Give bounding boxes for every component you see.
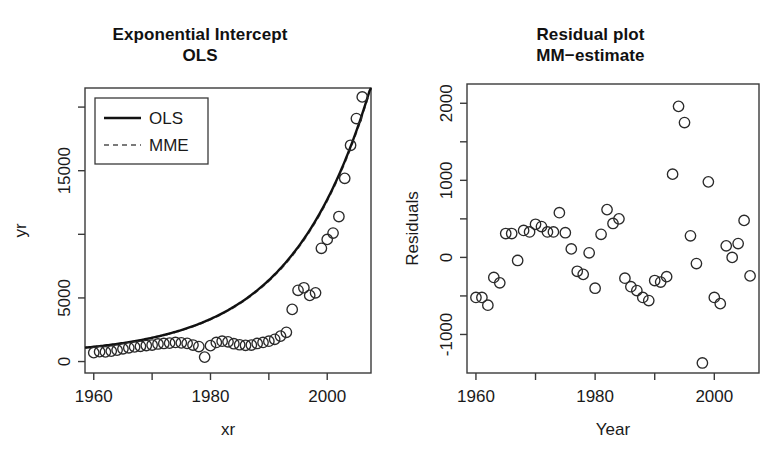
- y-tick-label: 15000: [55, 147, 74, 194]
- data-point: [602, 204, 612, 214]
- x-tick-label: 2000: [308, 387, 346, 406]
- data-point: [638, 292, 648, 302]
- data-point: [501, 228, 511, 238]
- y-tick-label: 1000: [437, 161, 456, 199]
- data-point: [703, 177, 713, 187]
- x-tick-label: 1980: [192, 387, 230, 406]
- data-point: [536, 221, 546, 231]
- data-point: [340, 173, 350, 183]
- data-point: [560, 228, 570, 238]
- data-point: [590, 283, 600, 293]
- data-point: [745, 271, 755, 281]
- x-tick-label: 1980: [576, 387, 614, 406]
- y-tick-label: 0: [437, 253, 456, 262]
- data-point: [679, 117, 689, 127]
- data-point: [685, 231, 695, 241]
- data-point: [264, 336, 274, 346]
- data-point: [322, 234, 332, 244]
- x-axis-label: Year: [596, 420, 631, 439]
- y-axis-label: yr: [11, 223, 30, 238]
- data-point: [673, 101, 683, 111]
- data-point: [626, 281, 636, 291]
- y-tick-label: 5000: [55, 279, 74, 317]
- x-tick-label: 2000: [695, 387, 733, 406]
- data-point: [530, 219, 540, 229]
- y-tick-label: 0: [55, 357, 74, 366]
- data-point: [584, 248, 594, 258]
- data-point: [566, 244, 576, 254]
- data-point: [733, 238, 743, 248]
- data-point: [578, 269, 588, 279]
- data-point: [334, 211, 344, 221]
- data-point: [721, 241, 731, 251]
- data-point: [483, 300, 493, 310]
- data-point: [697, 358, 707, 368]
- data-point: [667, 169, 677, 179]
- data-point: [596, 229, 606, 239]
- x-tick-label: 1960: [457, 387, 495, 406]
- data-point: [548, 227, 558, 237]
- data-point: [632, 285, 642, 295]
- data-point: [194, 341, 204, 351]
- legend-label-mme: MME: [149, 136, 189, 155]
- y-tick-label: -1000: [437, 313, 456, 356]
- data-point: [572, 266, 582, 276]
- left-plot-canvas: 1960198020000500015000xryrOLSMME: [0, 0, 400, 465]
- data-point: [305, 290, 315, 300]
- data-point: [727, 252, 737, 262]
- data-point: [506, 228, 516, 238]
- data-point: [328, 228, 338, 238]
- data-point: [715, 298, 725, 308]
- legend-label-ols: OLS: [149, 109, 183, 128]
- data-point: [287, 304, 297, 314]
- data-point: [644, 295, 654, 305]
- data-point: [310, 288, 320, 298]
- right-plot-canvas: 196019802000-1000010002000YearResiduals: [400, 0, 781, 465]
- y-axis-label: Residuals: [403, 191, 422, 266]
- x-axis-label: xr: [221, 420, 236, 439]
- figure-root: Exponential Intercept OLS 19601980200005…: [0, 0, 781, 465]
- data-point: [357, 92, 367, 102]
- data-point: [739, 215, 749, 225]
- y-tick-label: 2000: [437, 84, 456, 122]
- data-point: [199, 352, 209, 362]
- data-point: [542, 227, 552, 237]
- data-point: [293, 285, 303, 295]
- panel-residual-plot: Residual plot MM−estimate 196019802000-1…: [400, 0, 781, 465]
- panel-exponential-intercept: Exponential Intercept OLS 19601980200005…: [0, 0, 400, 465]
- data-point: [512, 255, 522, 265]
- data-point: [709, 292, 719, 302]
- data-point: [554, 208, 564, 218]
- data-point: [691, 258, 701, 268]
- x-tick-label: 1960: [75, 387, 113, 406]
- data-point: [471, 292, 481, 302]
